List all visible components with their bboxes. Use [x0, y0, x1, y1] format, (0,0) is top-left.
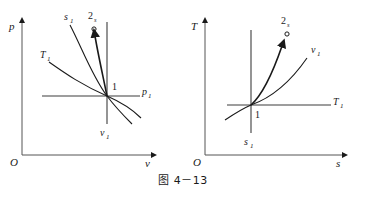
- pv-x-axis-label: v: [145, 157, 150, 169]
- pv-isobar-label-text: p: [141, 86, 147, 97]
- ts-y-axis-label: T: [191, 20, 198, 32]
- ts-axes: [205, 22, 343, 155]
- ts-isotherm-label: T 1: [333, 96, 344, 110]
- ts-diagram-panel: T s O 2 s v 1 T 1 1 s 1: [183, 0, 366, 170]
- ts-isentropic-label: s 1: [244, 136, 254, 150]
- pv-axes: [22, 22, 152, 155]
- ts-isentropic-label-text: s: [244, 136, 248, 147]
- ts-isotherm-label-text: T: [333, 96, 340, 107]
- pv-origin-label: O: [10, 156, 18, 168]
- pv-diagram-panel: p v O s 1 2 s T 1 1 p 1 v: [0, 0, 183, 170]
- ts-state-1-label: 1: [255, 109, 260, 120]
- ts-state-2s-label-sub: s: [287, 21, 290, 28]
- pv-state-1-label: 1: [112, 81, 117, 92]
- ts-state-2s-label: 2 s: [281, 15, 290, 28]
- ts-isotherm-label-sub: 1: [340, 102, 344, 110]
- ts-state-2s-label-text: 2: [281, 15, 286, 26]
- ts-diagram-svg: T s O 2 s v 1 T 1 1 s 1: [183, 0, 366, 170]
- pv-isotherm-label-text: T: [40, 49, 47, 60]
- ts-origin-label: O: [193, 156, 201, 168]
- ts-isochor-curve: [225, 58, 307, 120]
- pv-isobar-label-sub: 1: [148, 92, 152, 100]
- ts-isentropic-label-sub: 1: [250, 142, 254, 150]
- pv-isochor-label-sub: 1: [106, 133, 110, 141]
- pv-isentropic-label-text: s: [64, 11, 68, 22]
- figure-caption: 图 4－13: [0, 171, 366, 187]
- pv-diagram-svg: p v O s 1 2 s T 1 1 p 1 v: [0, 0, 183, 170]
- ts-process-arrow: [251, 46, 282, 105]
- ts-isochor-label-sub: 1: [317, 50, 321, 58]
- figure-container: p v O s 1 2 s T 1 1 p 1 v: [0, 0, 366, 197]
- pv-isentropic-label-sub: 1: [70, 17, 74, 25]
- ts-state-2s-marker: [285, 32, 289, 36]
- ts-isochor-label: v 1: [311, 44, 321, 58]
- pv-isochor-label-text: v: [100, 127, 105, 138]
- pv-isentropic-curve: [70, 25, 132, 124]
- pv-state-2s-label: 2 s: [88, 10, 97, 23]
- pv-isentropic-label: s 1: [64, 11, 74, 25]
- ts-x-axis-label: s: [336, 157, 340, 169]
- pv-isotherm-label-sub: 1: [47, 55, 51, 63]
- pv-state-2s-label-text: 2: [88, 10, 93, 21]
- pv-isobar-label: p 1: [141, 86, 152, 100]
- pv-isochor-label: v 1: [100, 127, 110, 141]
- pv-state-2s-label-sub: s: [94, 16, 97, 23]
- ts-isochor-label-text: v: [311, 44, 316, 55]
- pv-isotherm-curve: [49, 62, 141, 118]
- pv-isotherm-label: T 1: [40, 49, 51, 63]
- pv-state-2s-marker: [92, 27, 96, 31]
- pv-y-axis-label: p: [8, 20, 15, 32]
